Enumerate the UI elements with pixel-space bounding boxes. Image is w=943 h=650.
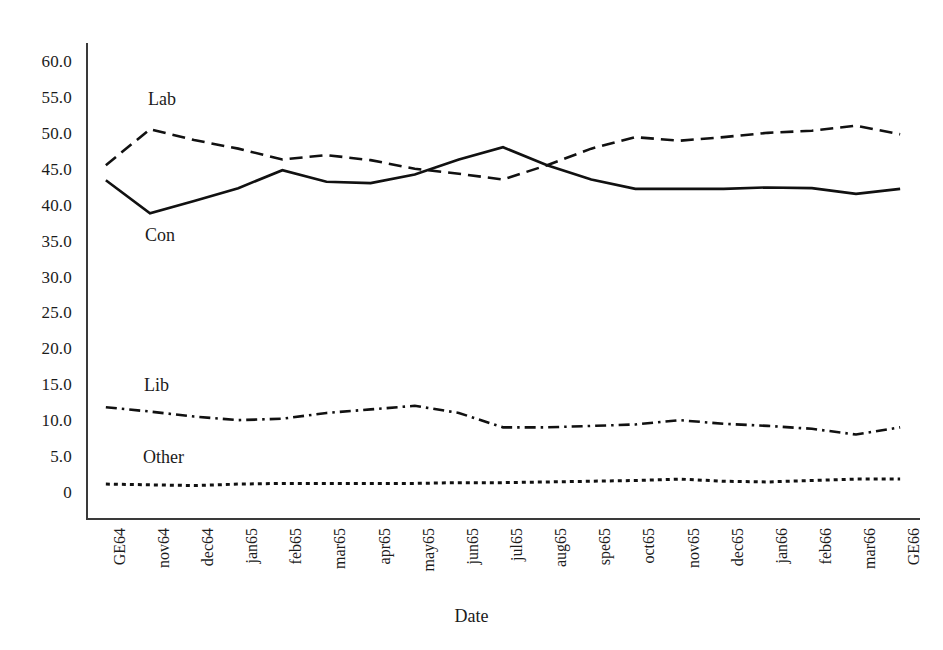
x-axis-tick-label: aug65 [553,528,569,618]
x-axis-title: Date [0,606,943,627]
x-axis-tick-label: dec64 [200,528,216,618]
x-axis-tick-label: apr65 [377,528,393,618]
series-label-lib: Lib [144,376,169,394]
x-axis-tick-label: mar66 [862,528,878,618]
chart-container: 05.010.015.020.025.030.035.040.045.050.0… [0,0,943,650]
x-axis-tick-label: spe65 [597,528,613,618]
x-axis-tick-label: jan65 [244,528,260,618]
x-axis-tick-label: mar65 [332,528,348,618]
x-axis-tick-label: feb66 [818,528,834,618]
x-axis-tick-label: feb65 [288,528,304,618]
x-axis-tick-label: jun65 [465,528,481,618]
x-axis-tick-label: may65 [421,528,437,618]
x-axis-tick-label: jul65 [509,528,525,618]
x-axis-tick-label: GE64 [112,528,128,618]
x-axis-tick-labels: GE64nov64dec64jan65feb65mar65apr65may65j… [0,0,943,650]
series-label-con: Con [145,226,175,244]
x-axis-tick-label: nov65 [686,528,702,618]
x-axis-tick-label: oct65 [641,528,657,618]
x-axis-tick-label: GE66 [906,528,922,618]
x-axis-tick-label: jan66 [774,528,790,618]
series-label-other: Other [143,448,184,466]
x-axis-tick-label: dec65 [730,528,746,618]
x-axis-tick-label: nov64 [156,528,172,618]
series-label-lab: Lab [148,90,176,108]
